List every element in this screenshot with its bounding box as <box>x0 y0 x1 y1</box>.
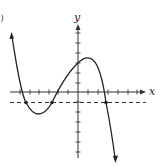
marked-point-2 <box>50 101 54 105</box>
marked-point-3 <box>104 101 108 105</box>
curve-bottom-arrow-icon <box>113 156 118 164</box>
curve-top-arrow-icon <box>10 32 15 39</box>
cubic-curve <box>12 37 115 158</box>
x-axis-arrow-icon <box>140 90 146 95</box>
marked-point-1 <box>24 101 28 105</box>
y-axis-arrow-icon <box>76 24 81 30</box>
y-axis <box>76 24 81 158</box>
function-graph <box>0 0 161 167</box>
